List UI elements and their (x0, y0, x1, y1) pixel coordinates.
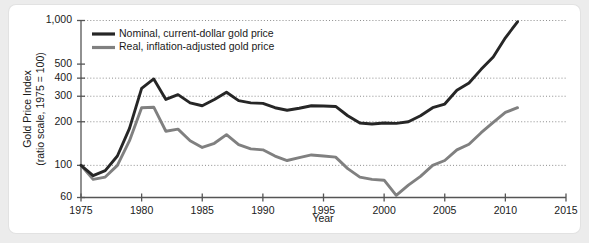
y-axis-title: Gold Price Index (ratio scale, 1975 = 10… (21, 52, 46, 166)
y-tick-label-200: 200 (54, 115, 72, 127)
y-tick-label-60: 60 (60, 190, 72, 202)
gold-price-chart: 601002003004005001,000 19751980198519901… (0, 0, 589, 243)
y-axis-tick-labels: 601002003004005001,000 (46, 13, 72, 202)
x-tick-label-1985: 1985 (191, 204, 215, 216)
chart-svg: 601002003004005001,000 19751980198519901… (0, 0, 589, 243)
y-tick-label-100: 100 (54, 158, 72, 170)
legend-label-0: Nominal, current-dollar gold price (119, 27, 274, 39)
chart-legend: Nominal, current-dollar gold priceReal, … (92, 27, 274, 53)
x-tick-label-1980: 1980 (130, 204, 154, 216)
legend-label-1: Real, inflation-adjusted gold price (119, 40, 274, 52)
y-tick-label-1000: 1,000 (46, 13, 72, 25)
x-axis-title: Year (312, 212, 334, 224)
y-tick-label-500: 500 (54, 57, 72, 69)
series-line-real-inflation-adjusted-gold-price (81, 107, 518, 195)
x-tick-label-2015: 2015 (554, 204, 578, 216)
y-axis-title-line1: Gold Price Index (21, 69, 33, 147)
x-tick-label-2010: 2010 (494, 204, 518, 216)
x-tick-label-2000: 2000 (372, 204, 396, 216)
x-tick-label-1975: 1975 (69, 204, 93, 216)
y-axis-title-line2: (ratio scale, 1975 = 100) (34, 52, 46, 166)
x-tick-label-1990: 1990 (251, 204, 275, 216)
x-tick-label-2005: 2005 (433, 204, 457, 216)
y-tick-label-300: 300 (54, 89, 72, 101)
y-tick-label-400: 400 (54, 71, 72, 83)
